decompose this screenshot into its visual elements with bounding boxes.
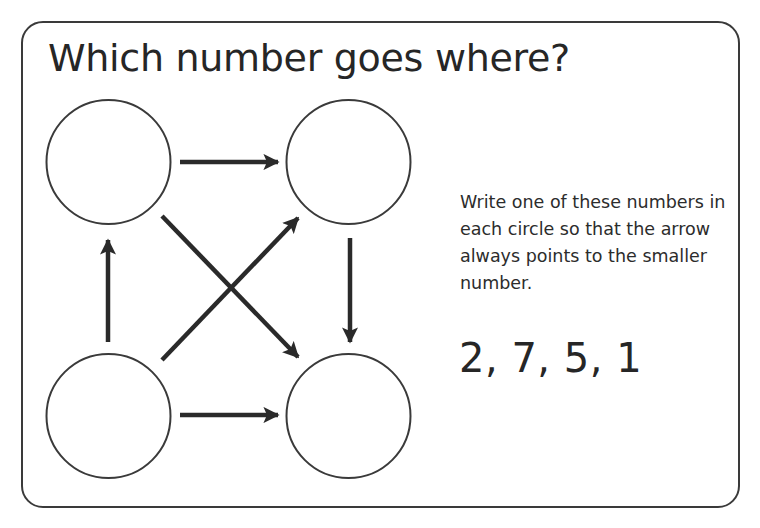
circle-top-right[interactable]: [287, 100, 411, 224]
circle-bottom-right[interactable]: [287, 354, 411, 478]
circle-top-left[interactable]: [47, 100, 171, 224]
instructions-text: Write one of these numbers in each circl…: [460, 189, 740, 297]
number-set: 2, 7, 5, 1: [459, 335, 642, 381]
circle-bottom-left[interactable]: [47, 354, 171, 478]
